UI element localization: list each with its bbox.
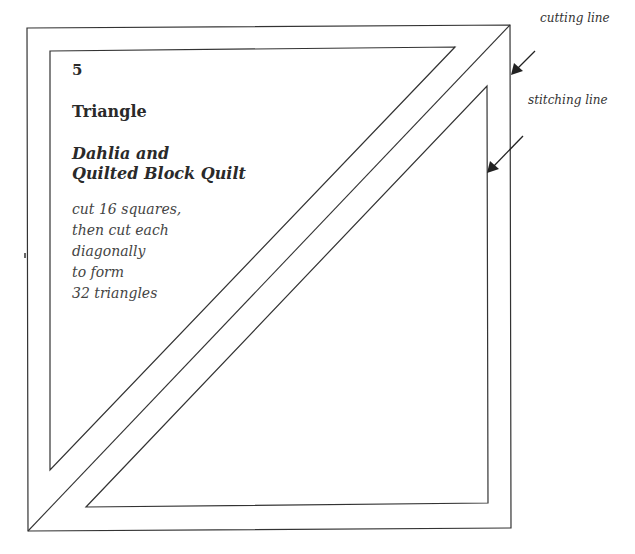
instruction-line: then cut each xyxy=(72,220,181,241)
instruction-line: to form xyxy=(72,262,181,283)
instruction-line: cut 16 squares, xyxy=(72,199,181,220)
instruction-line: diagonally xyxy=(72,241,181,262)
stitching-line-label: stitching line xyxy=(528,93,608,107)
instruction-line: 32 triangles xyxy=(72,283,181,304)
shape-title: Triangle xyxy=(72,102,147,121)
cutting-instructions: cut 16 squares, then cut each diagonally… xyxy=(72,199,181,304)
stitching-line-arrow-icon xyxy=(487,136,523,173)
cutting-line-arrow-icon xyxy=(511,51,535,75)
template-number: 5 xyxy=(72,61,82,79)
cutting-line-label: cutting line xyxy=(540,11,610,25)
quilt-name-line-1: Dahlia and xyxy=(72,144,246,164)
quilt-name: Dahlia and Quilted Block Quilt xyxy=(72,144,246,184)
quilt-name-line-2: Quilted Block Quilt xyxy=(72,164,246,184)
